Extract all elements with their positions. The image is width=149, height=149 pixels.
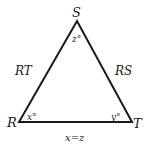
angle-label-s: z°: [71, 34, 81, 44]
angle-label-t: y°: [110, 112, 121, 122]
vertex-label-s: S: [72, 5, 81, 20]
side-label-bottom: x=z: [65, 132, 85, 143]
side-label-left: RT: [14, 64, 33, 78]
angle-label-r: x°: [27, 112, 37, 122]
side-label-right: RS: [114, 64, 132, 78]
vertex-label-r: R: [6, 115, 17, 130]
triangle-diagram: S R T z° x° y° RT RS x=z: [0, 0, 149, 149]
vertex-label-t: T: [133, 116, 143, 131]
